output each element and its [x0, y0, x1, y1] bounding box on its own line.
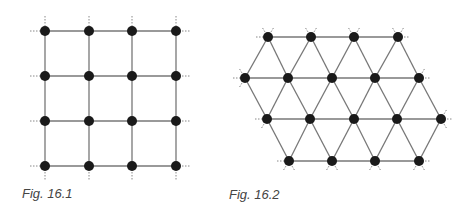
lattice-edge	[375, 78, 397, 119]
lattice-node	[171, 161, 181, 171]
lattice-node	[127, 26, 137, 36]
lattice-edge	[288, 37, 311, 78]
lattice-node	[414, 156, 424, 166]
lattice-node	[370, 156, 380, 166]
figure-caption-16-1: Fig. 16.1	[22, 186, 73, 201]
lattice-diagrams	[0, 0, 468, 211]
lattice-node	[284, 156, 294, 166]
lattice-node	[127, 116, 137, 126]
lattice-edge	[354, 78, 375, 119]
lattice-node	[349, 32, 359, 42]
lattice-node	[127, 161, 137, 171]
lattice-node	[84, 161, 94, 171]
lattice-node	[84, 116, 94, 126]
lattice-node	[327, 156, 337, 166]
lattice-node	[263, 32, 273, 42]
lattice-node	[171, 116, 181, 126]
lattice-edge	[419, 78, 441, 119]
lattice-edge	[288, 78, 310, 119]
lattice-edge	[267, 119, 289, 161]
lattice-node	[392, 114, 402, 124]
lattice-node	[305, 114, 315, 124]
lattice-node	[40, 26, 50, 36]
lattice-node	[262, 114, 272, 124]
lattice-node	[171, 26, 181, 36]
lattice-node	[40, 71, 50, 81]
lattice-edge	[397, 78, 419, 119]
lattice-node	[40, 161, 50, 171]
lattice-edge	[332, 119, 354, 161]
lattice-node	[84, 71, 94, 81]
lattice-edge	[419, 119, 441, 161]
lattice-node	[327, 73, 337, 83]
lattice-edge	[397, 119, 419, 161]
lattice-edge	[354, 37, 375, 78]
lattice-edge	[311, 37, 332, 78]
lattice-edge	[354, 119, 375, 161]
lattice-edge	[289, 119, 310, 161]
lattice-edge	[245, 78, 267, 119]
square-lattice-figure	[30, 16, 191, 181]
lattice-node	[414, 73, 424, 83]
lattice-edge	[375, 119, 397, 161]
lattice-edge	[310, 119, 332, 161]
lattice-node	[370, 73, 380, 83]
triangular-lattice-figure	[233, 27, 453, 171]
lattice-edge	[268, 37, 288, 78]
lattice-edge	[332, 78, 354, 119]
lattice-node	[171, 71, 181, 81]
lattice-node	[283, 73, 293, 83]
lattice-node	[40, 116, 50, 126]
lattice-node	[127, 71, 137, 81]
lattice-edge	[375, 37, 398, 78]
lattice-node	[436, 114, 446, 124]
lattice-edge	[267, 78, 288, 119]
lattice-edge	[398, 37, 419, 78]
lattice-node	[349, 114, 359, 124]
figure-caption-16-2: Fig. 16.2	[229, 187, 280, 202]
lattice-node	[84, 26, 94, 36]
lattice-node	[240, 73, 250, 83]
lattice-node	[393, 32, 403, 42]
lattice-node	[306, 32, 316, 42]
lattice-edge	[332, 37, 354, 78]
lattice-edge	[310, 78, 332, 119]
lattice-edge	[245, 37, 268, 78]
